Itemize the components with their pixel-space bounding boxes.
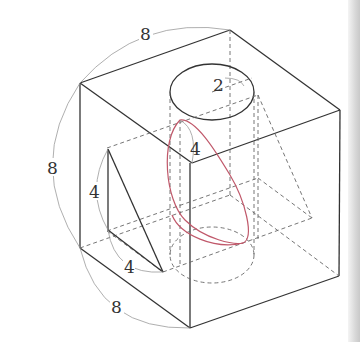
label-triangle-vertical: 4 [89, 182, 100, 202]
cylinder-bottom-ellipse [170, 227, 254, 283]
page-edge-strip [348, 0, 360, 342]
label-section-height: 4 [190, 139, 201, 159]
elliptical-section-lower [172, 215, 243, 245]
dimension-arcs [53, 27, 231, 328]
geometry-diagram: 8 8 8 2 4 4 4 [0, 0, 360, 342]
label-bottom-edge: 8 [111, 297, 122, 317]
cylinder [170, 64, 258, 283]
hidden-section-plane [107, 95, 312, 272]
label-cylinder-radius: 2 [213, 75, 224, 95]
elliptical-section [167, 120, 248, 243]
label-triangle-bottom: 4 [124, 257, 135, 277]
label-left-edge: 8 [47, 158, 58, 178]
label-top-edge: 8 [140, 24, 151, 44]
